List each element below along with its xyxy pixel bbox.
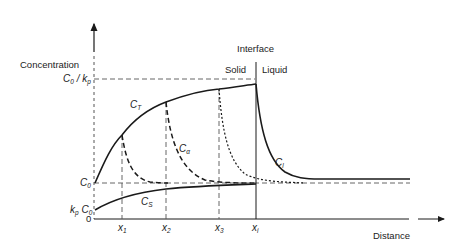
label-c-s: CS xyxy=(141,196,153,208)
svg-text:C0: C0 xyxy=(80,177,91,189)
label-c-t: CT xyxy=(130,99,142,111)
liquid-label: Liquid xyxy=(262,64,287,75)
y-tick-c0-over-kp: C0 / kp xyxy=(63,73,91,86)
svg-text:C0 / kp: C0 / kp xyxy=(63,73,91,86)
curve-c-alpha xyxy=(122,89,305,183)
curve-c-t xyxy=(95,84,256,183)
svg-text:kp C0: kp C0 xyxy=(70,204,93,217)
label-c-alpha: Cα xyxy=(179,143,190,155)
x-axis-label: Distance xyxy=(373,230,410,241)
y-tick-kp-c0: kp C0 xyxy=(70,204,93,217)
curve-c-s xyxy=(95,184,256,210)
solid-label: Solid xyxy=(225,64,246,75)
solidification-diagram: Concentration Distance 0 Interface Solid… xyxy=(0,0,465,250)
x-tick-x3: x3 xyxy=(214,222,224,234)
y-axis-label: Concentration xyxy=(20,59,79,70)
y-tick-c0: C0 xyxy=(80,177,91,189)
x-tick-x1: x1 xyxy=(117,222,127,234)
x-tick-x2: x2 xyxy=(161,222,171,234)
label-c-l: Cl xyxy=(275,157,284,169)
interface-label: Interface xyxy=(237,43,274,54)
x-tick-xi: xi xyxy=(251,222,259,234)
